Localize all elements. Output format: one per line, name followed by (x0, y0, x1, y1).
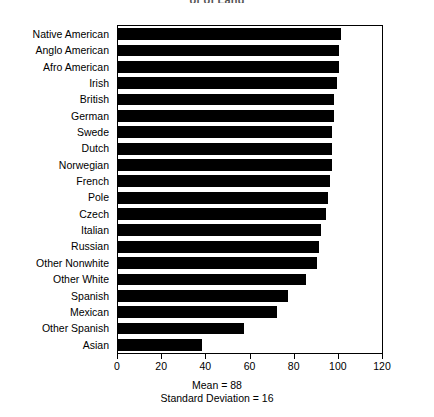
x-axis-tick-label: 120 (373, 360, 391, 372)
category-label: Dutch (0, 140, 113, 156)
bar-row (118, 77, 383, 89)
category-label: Czech (0, 206, 113, 222)
x-axis-tick-labels: 020406080100120 (117, 360, 383, 374)
bar (118, 159, 332, 171)
bars-container (118, 26, 383, 353)
bar-chart: of of Land Native AmericanAnglo American… (0, 0, 434, 417)
bar (118, 192, 328, 204)
bar-row (118, 192, 383, 204)
bar-row (118, 339, 383, 351)
bar-row (118, 110, 383, 122)
category-label: Spanish (0, 288, 113, 304)
bar (118, 175, 330, 187)
bar-row (118, 224, 383, 236)
bar (118, 208, 326, 220)
category-label: British (0, 91, 113, 107)
x-axis-tick-label: 100 (329, 360, 347, 372)
x-axis-tick-label: 80 (288, 360, 300, 372)
x-axis-tick (250, 354, 251, 359)
bar-row (118, 323, 383, 335)
bar (118, 126, 332, 138)
bar (118, 257, 317, 269)
bar-row (118, 175, 383, 187)
x-axis-ticks (117, 354, 383, 359)
bar-row (118, 208, 383, 220)
bar (118, 77, 337, 89)
category-label: Anglo American (0, 42, 113, 58)
category-label: French (0, 173, 113, 189)
bar-row (118, 61, 383, 73)
bar-row (118, 94, 383, 106)
bar (118, 323, 244, 335)
bar-row (118, 143, 383, 155)
bar (118, 61, 339, 73)
category-label: Mexican (0, 304, 113, 320)
bar-row (118, 28, 383, 40)
bar-row (118, 257, 383, 269)
category-label: Swede (0, 124, 113, 140)
bar-row (118, 290, 383, 302)
bar-row (118, 241, 383, 253)
bar (118, 339, 202, 351)
mean-annotation: Mean = 88 (0, 379, 434, 392)
category-axis-labels: Native AmericanAnglo AmericanAfro Americ… (0, 26, 113, 353)
footer-annotations: Mean = 88 Standard Deviation = 16 (0, 379, 434, 404)
bar-row (118, 159, 383, 171)
x-axis-tick (161, 354, 162, 359)
category-label: Irish (0, 75, 113, 91)
x-axis-tick (117, 354, 118, 359)
bar (118, 45, 339, 57)
x-axis-tick (294, 354, 295, 359)
x-axis-tick-label: 20 (155, 360, 167, 372)
x-axis-tick (338, 354, 339, 359)
category-label: Native American (0, 26, 113, 42)
bar (118, 143, 332, 155)
category-label: Pole (0, 190, 113, 206)
bar-row (118, 45, 383, 57)
category-label: Italian (0, 222, 113, 238)
bar (118, 290, 288, 302)
bar-row (118, 274, 383, 286)
x-axis-tick-label: 60 (244, 360, 256, 372)
x-axis-tick (205, 354, 206, 359)
chart-title: of of Land (0, 0, 434, 3)
x-axis-tick (382, 354, 383, 359)
bar (118, 110, 334, 122)
category-label: Russian (0, 239, 113, 255)
bar (118, 274, 306, 286)
standard-deviation-annotation: Standard Deviation = 16 (0, 392, 434, 405)
bar (118, 224, 321, 236)
bar (118, 306, 277, 318)
bar (118, 241, 319, 253)
category-label: Other Spanish (0, 320, 113, 336)
category-label: Afro American (0, 59, 113, 75)
bar-row (118, 306, 383, 318)
bar-row (118, 126, 383, 138)
bar (118, 28, 341, 40)
category-label: Asian (0, 337, 113, 353)
category-label: Other White (0, 271, 113, 287)
category-label: Norwegian (0, 157, 113, 173)
category-label: Other Nonwhite (0, 255, 113, 271)
category-label: German (0, 108, 113, 124)
x-axis-tick-label: 0 (114, 360, 120, 372)
bar (118, 94, 334, 106)
x-axis-tick-label: 40 (199, 360, 211, 372)
